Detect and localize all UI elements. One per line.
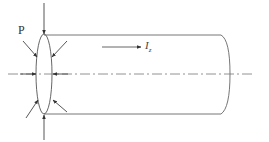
upper-left-arrow-icon [23, 41, 37, 57]
diagram-canvas [0, 0, 269, 142]
current-label-subscript: z [149, 46, 152, 54]
lower-right-arrow-icon [53, 100, 67, 112]
upper-right-arrow-icon [52, 41, 67, 57]
current-label: Iz [145, 40, 151, 54]
lower-left-arrow-icon [26, 100, 38, 118]
force-label: P [18, 24, 25, 36]
cylinder-pressure-diagram: P Iz [0, 0, 269, 142]
